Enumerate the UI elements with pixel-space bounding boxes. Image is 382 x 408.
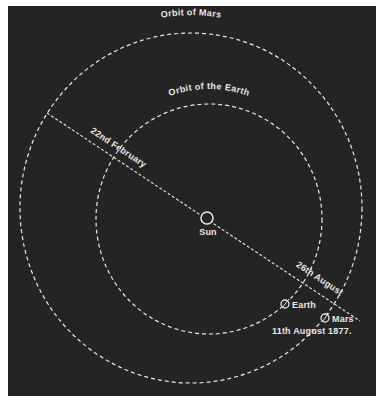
mars-orbit-label-text: Orbit of Mars: [160, 7, 222, 20]
sun-label: Sun: [199, 227, 217, 237]
earth-orbit-label-text: Orbit of the Earth: [167, 81, 251, 98]
feb-date-label: 22nd February: [89, 125, 148, 169]
earth-label: Earth: [292, 300, 316, 310]
mars-label: Mars: [332, 314, 354, 324]
orbit-diagram: Orbit of Mars Orbit of the Earth 22nd Fe…: [0, 0, 382, 408]
sun-icon: [201, 212, 213, 224]
mars-orbit-label: Orbit of Mars: [160, 7, 222, 20]
aug26-date-label: 26th August: [294, 259, 344, 297]
opposition-date-label: 11th August 1877.: [272, 326, 352, 336]
earth-orbit-label: Orbit of the Earth: [167, 81, 251, 98]
